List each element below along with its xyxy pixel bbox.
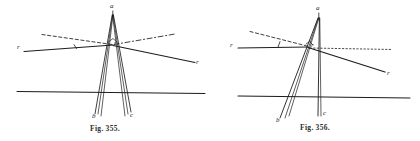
bundle-left-ray-3 [101,15,113,116]
bundle-right-ray-2 [320,18,321,116]
label-apex-a: a [316,5,320,12]
caption-prefix: Fig. [90,124,104,133]
construction-line-prolongation [310,48,392,50]
label-incident-ray-r: r [230,42,233,49]
figure-plate: a b c r r r Fig.355. [0,0,420,141]
baseline [238,96,410,98]
refracted-ray [113,46,195,63]
label-base-c: c [130,112,133,119]
refracted-ray [308,48,385,73]
bundle-left-ray-3 [289,18,319,116]
label-crossing-r: r [311,42,314,49]
bundle-left-ray-1 [95,15,112,114]
bundle-left-ray-2 [98,15,113,114]
baseline [17,92,205,94]
bundle-right-ray-3 [113,15,125,116]
caption-number: 356. [316,123,330,132]
construction-line-upper [42,35,112,45]
incident-ray [24,45,113,52]
bundle-left-ray-1 [280,18,318,118]
figure-356-caption: Fig.356. [210,123,420,132]
bundle-right-ray-2 [113,15,128,114]
label-base-c: c [323,110,326,117]
bundle-right-ray-1 [318,18,319,116]
label-incident-ray-r: r [17,44,20,51]
angle-tick [278,42,280,48]
figure-355: a b c r r r Fig.355. [0,0,210,141]
figure-355-caption: Fig.355. [0,124,210,133]
construction-line-prolongation [114,34,175,45]
label-refracted-ray-r: r [387,70,390,77]
caption-prefix: Fig. [300,123,314,132]
label-crossing-r: r [114,40,117,47]
incident-ray [238,47,308,48]
figure-356: a b c r r r Fig.356. [210,0,420,141]
label-refracted-ray-r: r [196,59,199,66]
figure-355-drawing [0,0,210,141]
bundle-right-ray-1 [113,15,131,112]
bundle-left-ray-2 [285,18,318,118]
construction-line-upper [250,32,307,47]
label-apex-a: a [110,3,114,10]
label-base-b: b [92,113,96,120]
caption-number: 355. [106,124,120,133]
